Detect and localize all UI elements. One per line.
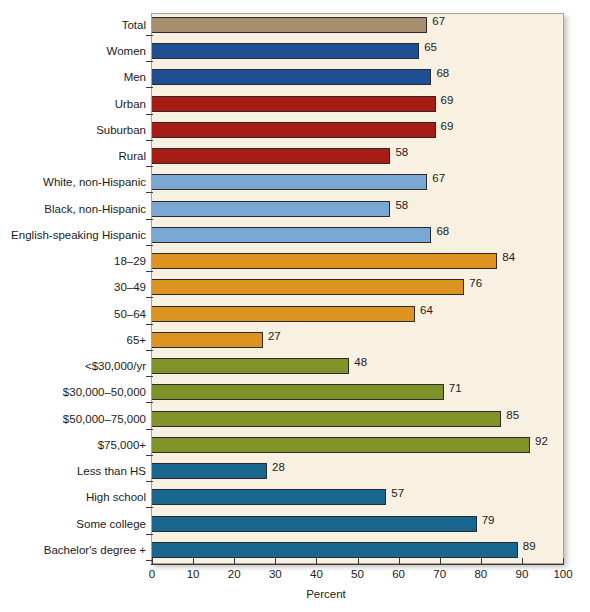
- category-label: Suburban: [96, 118, 146, 142]
- bar-fill: [152, 516, 477, 532]
- category-label: Bachelor's degree +: [44, 538, 146, 562]
- bar-row: English-speaking Hispanic68: [0, 223, 590, 247]
- x-axis-tick: [234, 558, 235, 565]
- y-axis-tick: [146, 271, 153, 272]
- bar-row: Men68: [0, 65, 590, 89]
- category-label: 65+: [126, 328, 146, 352]
- category-label: Some college: [76, 512, 146, 536]
- x-axis-tick: [440, 558, 441, 565]
- bar-value-label: 67: [427, 13, 445, 29]
- bar-row: Women65: [0, 39, 590, 63]
- bar-rows: Total67Women65Men68Urban69Suburban69Rura…: [0, 13, 590, 564]
- bar: [152, 437, 530, 453]
- bar-fill: [152, 148, 390, 164]
- bar-fill: [152, 411, 501, 427]
- x-axis-tick-label: 100: [553, 568, 572, 580]
- bar: [152, 122, 436, 138]
- bar-fill: [152, 384, 444, 400]
- category-label: White, non-Hispanic: [43, 170, 146, 194]
- y-axis-tick: [146, 61, 153, 62]
- y-axis-tick: [146, 402, 153, 403]
- x-axis-title-label: Percent: [306, 588, 346, 600]
- bar-fill: [152, 227, 431, 243]
- y-axis-tick: [146, 324, 153, 325]
- bar: [152, 411, 501, 427]
- category-label: 18–29: [114, 249, 146, 273]
- bar-fill: [152, 306, 415, 322]
- category-label: Women: [107, 39, 146, 63]
- y-axis-tick: [146, 534, 153, 535]
- bar: [152, 384, 444, 400]
- y-axis-tick: [146, 507, 153, 508]
- bar-fill: [152, 489, 386, 505]
- bar: [152, 516, 477, 532]
- category-label: 50–64: [114, 302, 146, 326]
- bar-row: 30–4976: [0, 275, 590, 299]
- bar-row: <$30,000/yr48: [0, 354, 590, 378]
- category-label: $50,000–75,000: [63, 407, 146, 431]
- bar-fill: [152, 43, 419, 59]
- bar-row: $30,000–50,00071: [0, 380, 590, 404]
- bar-value-label: 69: [436, 118, 454, 134]
- bar-value-label: 84: [497, 249, 515, 265]
- bar-fill: [152, 96, 436, 112]
- bar-fill: [152, 201, 390, 217]
- bar-value-label: 64: [415, 302, 433, 318]
- x-axis-tick-label: 80: [474, 568, 487, 580]
- bar-fill: [152, 332, 263, 348]
- category-label: Urban: [115, 92, 146, 116]
- bar-value-label: 57: [386, 485, 404, 501]
- x-axis-tick: [481, 558, 482, 565]
- bar-value-label: 65: [419, 39, 437, 55]
- category-label: Men: [124, 65, 146, 89]
- category-label: English-speaking Hispanic: [11, 223, 146, 247]
- category-label: $30,000–50,000: [63, 380, 146, 404]
- bar: [152, 43, 419, 59]
- bar-row: Total67: [0, 13, 590, 37]
- bar-row: Urban69: [0, 92, 590, 116]
- category-label: Black, non-Hispanic: [44, 197, 146, 221]
- y-axis-tick: [146, 376, 153, 377]
- bar-row: Suburban69: [0, 118, 590, 142]
- bar-value-label: 71: [444, 380, 462, 396]
- y-axis-tick: [146, 219, 153, 220]
- bar-fill: [152, 122, 436, 138]
- bar-row: $50,000–75,00085: [0, 407, 590, 431]
- bar-row: Black, non-Hispanic58: [0, 197, 590, 221]
- bar-value-label: 92: [530, 433, 548, 449]
- bar: [152, 96, 436, 112]
- category-label: $75,000+: [98, 433, 146, 457]
- bar-fill: [152, 463, 267, 479]
- x-axis-tick-label: 60: [392, 568, 405, 580]
- bar-value-label: 67: [427, 170, 445, 186]
- category-label: <$30,000/yr: [85, 354, 146, 378]
- y-axis-tick: [146, 35, 153, 36]
- category-label: Total: [122, 13, 146, 37]
- bar: [152, 69, 431, 85]
- bar: [152, 542, 518, 558]
- bar-fill: [152, 253, 497, 269]
- bar-value-label: 76: [464, 275, 482, 291]
- category-label: High school: [86, 485, 146, 509]
- y-axis-tick: [146, 166, 153, 167]
- x-axis-tick-label: 70: [433, 568, 446, 580]
- bar-row: 50–6464: [0, 302, 590, 326]
- bar-chart: Total67Women65Men68Urban69Suburban69Rura…: [0, 0, 590, 612]
- category-label: Less than HS: [77, 459, 146, 483]
- bar-fill: [152, 69, 431, 85]
- bar-value-label: 27: [263, 328, 281, 344]
- bar: [152, 279, 464, 295]
- bar-value-label: 85: [501, 407, 519, 423]
- bar-row: Some college79: [0, 512, 590, 536]
- bar-value-label: 28: [267, 459, 285, 475]
- bar-value-label: 69: [436, 92, 454, 108]
- x-axis-tick: [316, 558, 317, 565]
- bar-row: $75,000+92: [0, 433, 590, 457]
- bar: [152, 253, 497, 269]
- x-axis-tick: [275, 558, 276, 565]
- y-axis-tick: [146, 87, 153, 88]
- y-axis-tick: [146, 350, 153, 351]
- bar: [152, 227, 431, 243]
- bar: [152, 463, 267, 479]
- x-axis-tick: [522, 558, 523, 565]
